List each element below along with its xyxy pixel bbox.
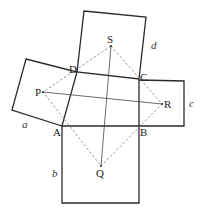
- label-A: A: [53, 126, 61, 138]
- label-P: P: [35, 86, 41, 98]
- label-C: C: [140, 71, 147, 83]
- label-S: S: [107, 33, 113, 45]
- label-side-a: a: [22, 118, 28, 130]
- label-side-b: b: [52, 167, 58, 179]
- point-P: [42, 91, 44, 93]
- square-on-side-d: [77, 11, 146, 79]
- segment-SQ: [101, 46, 111, 166]
- label-B: B: [140, 126, 147, 138]
- label-side-c: c: [189, 97, 194, 109]
- point-S: [110, 45, 112, 47]
- label-Q: Q: [96, 167, 104, 179]
- label-R: R: [164, 98, 172, 110]
- quadrilateral-squares-diagram: A B C D S P R Q a b c d: [0, 0, 201, 214]
- point-R: [161, 103, 163, 105]
- square-on-side-b: [62, 126, 139, 203]
- label-side-d: d: [151, 39, 157, 51]
- label-D: D: [69, 63, 77, 75]
- square-on-side-c: [139, 80, 184, 126]
- segment-PR: [43, 92, 162, 104]
